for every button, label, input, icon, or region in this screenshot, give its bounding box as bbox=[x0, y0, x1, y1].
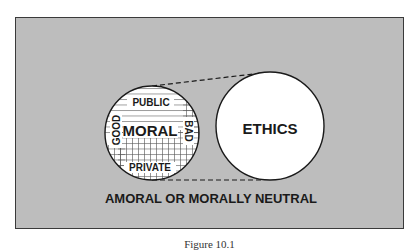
ethics-label: ETHICS bbox=[242, 120, 297, 137]
moral-label: MORAL bbox=[123, 122, 178, 139]
public-label: PUBLIC bbox=[132, 97, 169, 108]
good-label: GOOD bbox=[111, 115, 122, 146]
amoral-label: AMORAL OR MORALLY NEUTRAL bbox=[105, 191, 317, 206]
bad-label: BAD bbox=[183, 120, 194, 142]
private-label: PRIVATE bbox=[129, 162, 171, 173]
figure-caption: Figure 10.1 bbox=[0, 238, 419, 250]
